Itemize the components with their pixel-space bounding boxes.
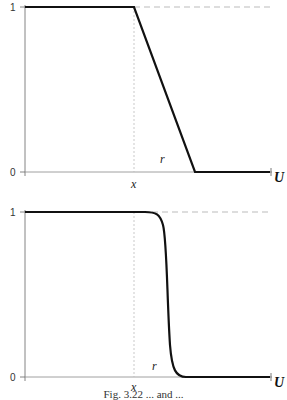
top-linear-curve	[25, 7, 270, 172]
bottom-smooth-curve	[25, 212, 270, 377]
top-y-label-0: 0	[10, 167, 16, 178]
figure-caption: Fig. 3.22 ... and ...	[0, 388, 287, 400]
figure-canvas: 1 0 x r U 1 0 x r U	[0, 0, 287, 400]
top-r-label: r	[160, 152, 165, 166]
top-axis-u-label: U	[274, 170, 285, 185]
top-x-label: x	[130, 177, 137, 191]
bottom-y-label-0: 0	[10, 372, 16, 383]
bottom-y-label-1: 1	[10, 207, 16, 218]
bottom-plot: 1 0 x r U	[10, 207, 285, 394]
bottom-r-label: r	[152, 359, 157, 373]
top-plot: 1 0 x r U	[10, 2, 285, 191]
top-y-label-1: 1	[10, 2, 16, 13]
